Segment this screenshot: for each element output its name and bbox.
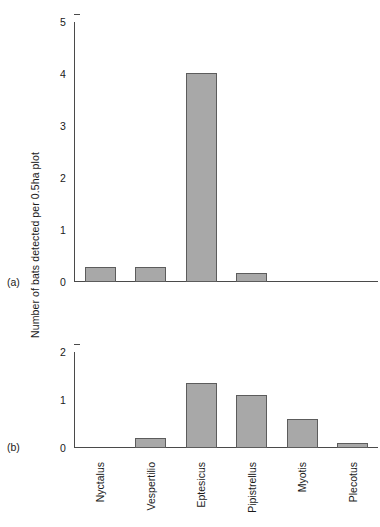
x-axis-label-myotis: Myotis bbox=[296, 462, 308, 492]
x-label-slot: Pipistrellus bbox=[227, 462, 278, 524]
bar-plecotus bbox=[337, 443, 368, 448]
tick-mark bbox=[74, 14, 80, 15]
panel-tag-a: (a) bbox=[7, 276, 20, 288]
x-axis-label-eptesicus: Eptesicus bbox=[195, 462, 207, 508]
chart-panel-b: 012 bbox=[60, 344, 378, 458]
x-axis-label-nyctalus: Nyctalus bbox=[94, 462, 106, 502]
bar-slot bbox=[277, 22, 328, 282]
x-axis-category-labels: NyctalusVespertilioEptesicusPipistrellus… bbox=[75, 462, 378, 524]
tick-label: 1 bbox=[60, 224, 66, 236]
chart-panel-a: 012345 bbox=[60, 14, 378, 292]
x-axis-label-vespertilio: Vespertilio bbox=[145, 462, 157, 510]
x-label-slot: Eptesicus bbox=[176, 462, 227, 524]
tick-label: 0 bbox=[60, 442, 66, 454]
bar-pipistrellus bbox=[236, 395, 267, 448]
bar-slot bbox=[126, 352, 177, 448]
panel-tag-b: (b) bbox=[7, 441, 20, 453]
bar-slot bbox=[227, 22, 278, 282]
bar-myotis bbox=[287, 419, 318, 448]
bat-detection-figure: Number of bats detected per 0.5ha plot (… bbox=[0, 0, 380, 527]
bar-nyctalus bbox=[85, 267, 116, 282]
tick-mark bbox=[74, 344, 80, 345]
tick-label: 3 bbox=[60, 120, 66, 132]
tick-label: 1 bbox=[60, 394, 66, 406]
panel-b-bars bbox=[75, 352, 378, 448]
x-label-slot: Myotis bbox=[277, 462, 328, 524]
panel-a-bars bbox=[75, 22, 378, 282]
y-axis-label-text: Number of bats detected per 0.5ha plot bbox=[29, 152, 41, 338]
x-label-slot: Plecotus bbox=[328, 462, 379, 524]
bar-vespertilio bbox=[135, 267, 166, 282]
tick-label: 0 bbox=[60, 276, 66, 288]
bar-slot bbox=[227, 352, 278, 448]
tick-label: 5 bbox=[60, 16, 66, 28]
x-axis-label-plecotus: Plecotus bbox=[347, 462, 359, 502]
bar-slot bbox=[75, 352, 126, 448]
bar-slot bbox=[277, 352, 328, 448]
bar-vespertilio bbox=[135, 438, 166, 448]
x-label-slot: Nyctalus bbox=[75, 462, 126, 524]
bar-slot bbox=[176, 352, 227, 448]
bar-slot bbox=[328, 352, 379, 448]
bar-slot bbox=[328, 22, 379, 282]
x-label-slot: Vespertilio bbox=[126, 462, 177, 524]
tick-label: 2 bbox=[60, 346, 66, 358]
bar-slot bbox=[126, 22, 177, 282]
bar-eptesicus bbox=[186, 383, 217, 448]
x-axis-label-pipistrellus: Pipistrellus bbox=[246, 462, 258, 513]
bar-slot bbox=[75, 22, 126, 282]
tick-label: 4 bbox=[60, 68, 66, 80]
bar-eptesicus bbox=[186, 73, 217, 282]
tick-label: 2 bbox=[60, 172, 66, 184]
y-axis-label: Number of bats detected per 0.5ha plot bbox=[26, 95, 44, 395]
bar-slot bbox=[176, 22, 227, 282]
bar-pipistrellus bbox=[236, 273, 267, 282]
